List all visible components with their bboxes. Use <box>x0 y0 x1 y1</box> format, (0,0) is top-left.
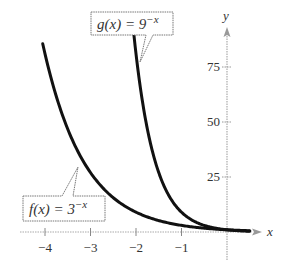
x-axis-label: x <box>266 224 273 239</box>
x-tick-label: −2 <box>129 240 143 255</box>
y-tick-label: 25 <box>207 169 220 184</box>
g-curve <box>134 33 250 231</box>
x-tick-label: −4 <box>38 240 52 255</box>
g-callout: g(x) = 9−x <box>91 12 173 62</box>
x-tick-label: −3 <box>84 240 98 255</box>
g-label-exponent: −x <box>146 13 158 25</box>
y-ticks: 255075 <box>207 59 232 184</box>
f-label-exponent: −x <box>75 198 87 210</box>
y-axis-label: y <box>221 8 229 23</box>
y-tick-label: 75 <box>207 59 220 74</box>
y-tick-label: 50 <box>207 114 220 129</box>
f-label-base: f(x) = 3 <box>29 201 75 218</box>
g-label-base: g(x) = 9 <box>97 16 147 33</box>
y-axis-arrow-icon <box>224 27 231 37</box>
x-tick-label: −1 <box>175 240 189 255</box>
exponential-chart: x y −4−3−2−1 255075 g(x) = 9−x f(x) = 3−… <box>0 0 292 273</box>
x-axis-arrow-icon <box>252 229 262 236</box>
